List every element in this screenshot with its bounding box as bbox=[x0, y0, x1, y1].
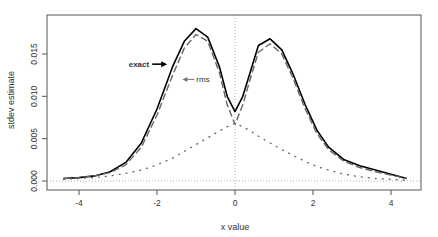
reference-lines bbox=[47, 15, 421, 190]
x-tick-label: 2 bbox=[311, 198, 316, 208]
y-tick-label: 0.010 bbox=[29, 85, 39, 107]
x-tick-label: -2 bbox=[153, 198, 161, 208]
y-tick-label: 0.005 bbox=[29, 128, 39, 150]
y-tick-label: 0.015 bbox=[29, 43, 39, 65]
x-tick-label: 4 bbox=[389, 198, 394, 208]
chart: -4-2024 0.0000.0050.0100.015 exactrms x … bbox=[0, 0, 438, 237]
plot-frame bbox=[47, 15, 421, 190]
x-axis-label: x value bbox=[221, 222, 250, 232]
y-axis: 0.0000.0050.0100.015 bbox=[29, 43, 47, 192]
arrowhead-icon bbox=[161, 61, 167, 67]
x-axis: -4-2024 bbox=[75, 190, 393, 208]
y-axis-label: stdev estimate bbox=[6, 71, 16, 129]
x-tick-label: -4 bbox=[75, 198, 83, 208]
y-tick-label: 0.000 bbox=[29, 170, 39, 192]
annotations: exactrms bbox=[129, 60, 210, 84]
annotation-rms: rms bbox=[196, 75, 209, 84]
x-tick-label: 0 bbox=[233, 198, 238, 208]
annotation-exact: exact bbox=[129, 60, 150, 69]
